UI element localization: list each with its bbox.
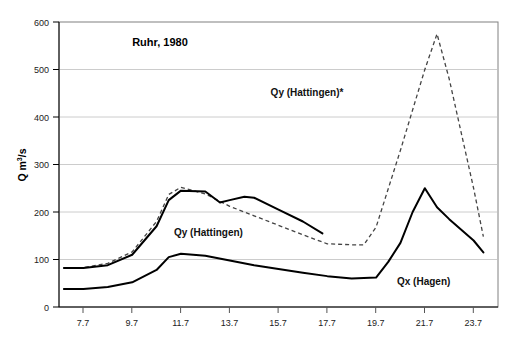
x-tick-label-13-7: 13.7 <box>221 318 239 328</box>
y-axis-title: Q m3/s <box>16 148 28 181</box>
y-axis-title-tail: /s <box>16 148 28 157</box>
y-tick-label-500: 500 <box>34 65 49 75</box>
y-tick-label-200: 200 <box>34 208 49 218</box>
series-label-qy-hattingen-star: Qy (Hattingen)* <box>271 87 344 98</box>
line-chart: 600 500 400 300 200 100 0 7.7 9.7 11.7 1… <box>0 0 516 340</box>
y-tick-label-100: 100 <box>34 255 49 265</box>
x-tick-label-15-7: 15.7 <box>269 318 287 328</box>
y-tick-label-300: 300 <box>34 160 49 170</box>
chart-container: 600 500 400 300 200 100 0 7.7 9.7 11.7 1… <box>0 0 516 340</box>
y-axis-ticks: 600 500 400 300 200 100 0 <box>34 18 59 313</box>
x-tick-label-19-7: 19.7 <box>367 318 385 328</box>
chart-title: Ruhr, 1980 <box>132 36 188 48</box>
series-label-qy-hattingen: Qy (Hattingen) <box>174 227 243 238</box>
y-tick-label-600: 600 <box>34 18 49 28</box>
x-tick-label-11-7: 11.7 <box>172 318 189 328</box>
x-tick-label-9-7: 9.7 <box>126 318 139 328</box>
x-tick-label-21-7: 21.7 <box>416 318 434 328</box>
y-tick-label-400: 400 <box>34 113 49 123</box>
y-axis-title-base: Q m <box>16 161 28 181</box>
series-label-qx-hagen: Qx (Hagen) <box>397 276 450 287</box>
x-tick-label-23-7: 23.7 <box>465 318 483 328</box>
x-tick-label-17-7: 17.7 <box>318 318 336 328</box>
y-tick-label-0: 0 <box>44 303 49 313</box>
x-tick-label-7-7: 7.7 <box>77 318 90 328</box>
x-axis-ticks: 7.7 9.7 11.7 13.7 15.7 17.7 19.7 21.7 23… <box>77 307 482 328</box>
svg-text:Q m3/s: Q m3/s <box>16 148 28 181</box>
